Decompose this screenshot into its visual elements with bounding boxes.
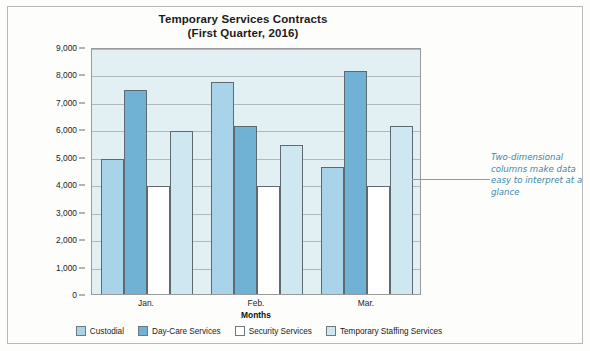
- y-axis-tick-label: 9,000: [56, 43, 77, 53]
- bar: [321, 167, 344, 295]
- y-axis-tick-mark: [79, 185, 85, 186]
- legend-item: Temporary Staffing Services: [326, 326, 442, 336]
- legend-swatch: [235, 326, 245, 336]
- y-axis-tick-label: 2,000: [56, 235, 77, 245]
- chart-figure: Temporary Services Contracts (First Quar…: [33, 10, 453, 335]
- y-axis-tick-mark: [79, 212, 85, 213]
- x-axis-tick-label: Mar.: [311, 298, 421, 308]
- y-axis-tick-label: 8,000: [56, 70, 77, 80]
- plot-wrapper: Dollars Spent 01,0002,0003,0004,0005,000…: [91, 48, 421, 295]
- y-axis-tick-mark: [79, 48, 85, 49]
- legend-label: Temporary Staffing Services: [340, 327, 442, 336]
- legend-swatch: [138, 326, 148, 336]
- bar-groups: [92, 49, 421, 295]
- y-axis-tick-mark: [79, 130, 85, 131]
- bar: [124, 90, 147, 295]
- legend-swatch: [76, 326, 86, 336]
- x-axis-tick-label: Feb.: [201, 298, 311, 308]
- chart-title-line1: Temporary Services Contracts: [159, 13, 328, 25]
- y-axis-tick-label: 1,000: [56, 263, 77, 273]
- legend-item: Custodial: [76, 326, 124, 336]
- bar: [390, 126, 413, 295]
- bar: [344, 71, 367, 295]
- page: Temporary Services Contracts (First Quar…: [0, 0, 590, 351]
- x-axis-labels: Jan.Feb.Mar.: [91, 298, 421, 308]
- y-axis-tick-label: 7,000: [56, 98, 77, 108]
- annotation-leader-line: [412, 179, 490, 180]
- y-axis-tick-label: 3,000: [56, 208, 77, 218]
- bar-group: [312, 49, 421, 295]
- bar: [257, 186, 280, 295]
- legend-label: Day-Care Services: [152, 327, 221, 336]
- legend-label: Security Services: [249, 327, 312, 336]
- y-axis-tick-mark: [79, 102, 85, 103]
- legend-swatch: [326, 326, 336, 336]
- chart-legend: CustodialDay-Care ServicesSecurity Servi…: [49, 326, 469, 336]
- y-axis-labels: 01,0002,0003,0004,0005,0006,0007,0008,00…: [35, 48, 85, 295]
- x-axis-tick-label: Jan.: [91, 298, 201, 308]
- legend-label: Custodial: [90, 327, 124, 336]
- bar: [101, 159, 124, 295]
- bar: [147, 186, 170, 295]
- bar: [280, 145, 303, 295]
- legend-item: Day-Care Services: [138, 326, 221, 336]
- y-axis-tick-label: 4,000: [56, 180, 77, 190]
- y-axis-tick-mark: [79, 240, 85, 241]
- bar: [367, 186, 390, 295]
- y-axis-tick-mark: [79, 295, 85, 296]
- annotation-text: Two-dimensional columns make data easy t…: [491, 152, 586, 198]
- y-axis-tick-label: 0: [72, 290, 77, 300]
- bar: [234, 126, 257, 295]
- bar: [170, 131, 193, 295]
- bar-group: [92, 49, 202, 295]
- y-axis-tick-mark: [79, 75, 85, 76]
- bar: [211, 82, 234, 295]
- x-axis-title: Months: [91, 310, 421, 320]
- legend-item: Security Services: [235, 326, 312, 336]
- plot-area: [91, 48, 421, 295]
- chart-title: Temporary Services Contracts (First Quar…: [33, 12, 453, 40]
- bar-group: [202, 49, 312, 295]
- chart-subtitle: (First Quarter, 2016): [33, 26, 453, 40]
- y-axis-tick-label: 5,000: [56, 153, 77, 163]
- y-axis-tick-mark: [79, 267, 85, 268]
- y-axis-tick-mark: [79, 157, 85, 158]
- y-axis-tick-label: 6,000: [56, 125, 77, 135]
